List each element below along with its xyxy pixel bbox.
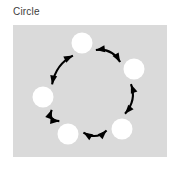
edge-n3-n4-arrowhead-start	[98, 130, 107, 139]
edge-n4-n5	[45, 110, 59, 124]
edge-n2-n3-arrowhead-start	[131, 84, 138, 94]
node-right[interactable]	[124, 59, 145, 80]
edge-n4-n5-arrowhead-end	[45, 110, 52, 120]
edge-n3-n4	[83, 130, 106, 140]
edge-n5-n1-arrowhead-start	[50, 75, 57, 84]
node-bottom-right[interactable]	[112, 119, 133, 140]
edge-n3-n4-arrowhead-end	[83, 133, 93, 141]
node-left[interactable]	[33, 87, 54, 108]
node-bottom-left[interactable]	[58, 124, 79, 145]
diagram-canvas	[13, 25, 167, 157]
diagram-panel	[13, 25, 167, 157]
edge-n2-n3-arrowhead-end	[125, 105, 134, 114]
circle-diagram-figure: Circle	[0, 0, 179, 169]
edge-n1-n2	[96, 45, 120, 62]
edge-n2-n3	[125, 84, 137, 114]
edge-n5-n1	[50, 56, 73, 85]
node-top[interactable]	[72, 33, 93, 54]
edge-n5-n1-path	[52, 56, 73, 85]
page-title: Circle	[13, 6, 40, 18]
